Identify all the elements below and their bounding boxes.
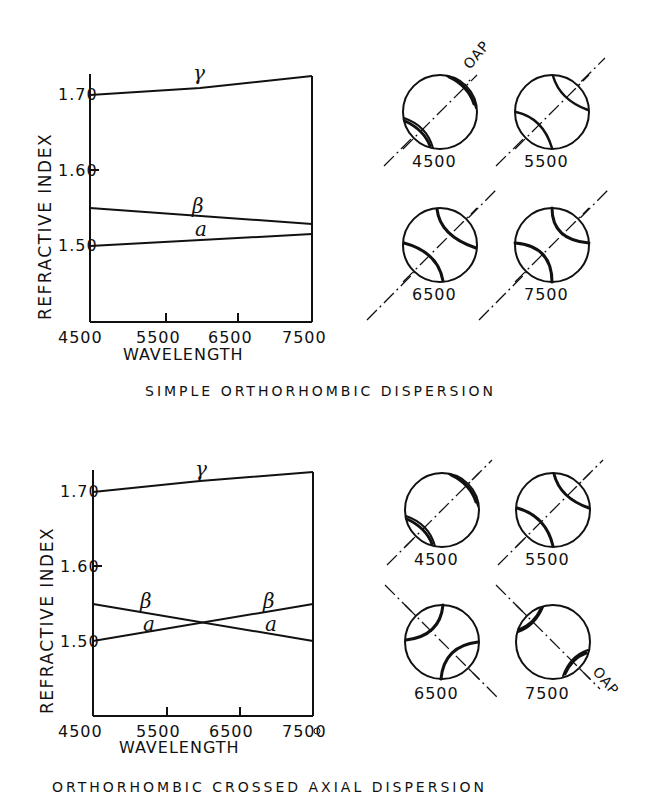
simple-dispersion-chart: 1.70 1.60 1.50 REFRACTIVE INDEX 4500 550… [35,61,327,364]
y-axis-label: REFRACTIVE INDEX [37,527,57,714]
figure-label: 5500 [525,550,570,569]
interference-figure-7500: 7500 OAP [496,585,622,703]
figure-label: 6500 [412,285,457,304]
interference-figure-6500: 6500 [367,190,496,320]
interference-figure-4500: 4500 OAP [384,37,493,171]
alpha-label: a [195,217,207,241]
interference-figure-6500: 6500 [385,585,498,703]
x-axis-label: WAVELENGTH [119,738,240,757]
alpha-label-left: a [143,612,155,636]
y-tick-label: 1.60 [58,161,98,180]
crossed-dispersion-chart: 1.70 1.60 1.50 REFRACTIVE INDEX 4500 550… [37,457,327,757]
interference-figure-5500: 5500 [498,460,603,569]
dispersion-figure: 1.70 1.60 1.50 REFRACTIVE INDEX 4500 550… [0,0,656,806]
y-axis-label: REFRACTIVE INDEX [35,133,55,320]
oap-label: OAP [590,664,623,699]
alpha-label-right: a [265,612,277,636]
x-axis-label: WAVELENGTH [123,345,244,364]
gamma-label: γ [195,457,207,481]
beta-label: β [191,194,204,218]
figure-label: 7500 [524,285,569,304]
crossed-interference-figures: 4500 5500 6500 750 [385,460,622,703]
beta-label-left: β [139,589,152,613]
interference-figure-7500: 7500 [479,190,608,320]
x-tick-label: 4500 [58,328,103,347]
interference-figure-4500: 4500 [387,460,492,569]
panel-caption: SIMPLE ORTHORHOMBIC DISPERSION [145,383,496,399]
gamma-label: γ [193,61,205,85]
figure-label: 4500 [412,152,457,171]
beta-label-right: β [262,589,275,613]
x-tick-label: 7500 [282,328,327,347]
figure-label: 4500 [414,550,459,569]
oap-label: OAP [460,37,493,72]
figure-label: 5500 [524,152,569,171]
simple-interference-figures: 4500 OAP 5500 6500 7500 [367,37,608,320]
x-tick-label: 4500 [58,722,103,741]
figure-label: 6500 [414,684,459,703]
interference-figure-5500: 5500 [496,58,605,171]
panel-caption: ORTHORHOMBIC CROSSED AXIAL DISPERSION [52,779,487,795]
y-tick-label: 1.60 [60,557,100,576]
figure-label: 7500 [525,684,570,703]
